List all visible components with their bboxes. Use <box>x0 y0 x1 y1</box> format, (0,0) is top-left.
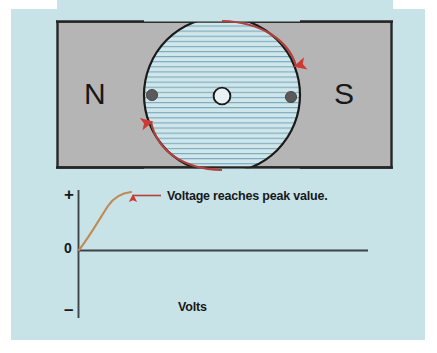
voltage-graph <box>79 190 369 318</box>
graph-axis-positive-label: + <box>64 186 74 203</box>
magnet-south-pole-label: S <box>334 79 354 109</box>
coil-dot-left <box>146 89 157 100</box>
armature-shaft-circle <box>214 88 231 105</box>
magnet-north-pole-label: N <box>84 79 106 109</box>
graph-axis-zero-label: 0 <box>64 241 72 255</box>
voltage-curve <box>79 192 131 250</box>
graph-axis-negative-label: – <box>64 301 73 318</box>
hatch-top-trim <box>144 14 300 22</box>
coil-dot-right <box>285 91 296 102</box>
figure-root: N S + 0 – Volts Voltage reaches peak val… <box>0 0 437 353</box>
graph-series-label: Volts <box>178 301 207 314</box>
callout-text: Voltage reaches peak value. <box>167 190 327 203</box>
